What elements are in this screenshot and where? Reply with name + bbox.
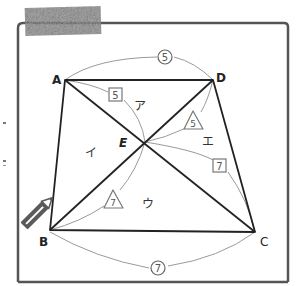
svg-text:5: 5: [162, 52, 168, 63]
circle-mark-bc: 7: [151, 261, 165, 275]
svg-text:5: 5: [190, 119, 196, 129]
region-label-a: ア: [134, 99, 146, 113]
region-label-e: エ: [202, 135, 214, 149]
triangle-mark-be: 7: [104, 190, 123, 208]
svg-text:7: 7: [110, 198, 116, 208]
diagonal-db: [50, 80, 213, 230]
square-mark-ae: 5: [109, 88, 122, 101]
edge-marks: [3, 122, 6, 166]
vertex-label-c: C: [260, 235, 268, 249]
region-label-u: ウ: [142, 197, 154, 211]
diagram-card: A D B C E ア イ エ ウ 5 7 5 7 5 7: [0, 0, 296, 286]
vertex-label-d: D: [216, 71, 226, 85]
square-mark-ec: 7: [213, 159, 226, 172]
circle-mark-ad: 5: [158, 50, 172, 64]
svg-text:7: 7: [216, 161, 222, 172]
svg-text:5: 5: [112, 90, 118, 101]
vertex-label-a: A: [52, 73, 62, 87]
svg-text:7: 7: [155, 263, 161, 274]
tape-decoration: [25, 6, 102, 36]
region-label-i: イ: [85, 146, 97, 160]
vertex-label-e: E: [119, 136, 128, 150]
vertex-label-b: B: [39, 235, 48, 249]
triangle-mark-de: 5: [184, 111, 203, 129]
